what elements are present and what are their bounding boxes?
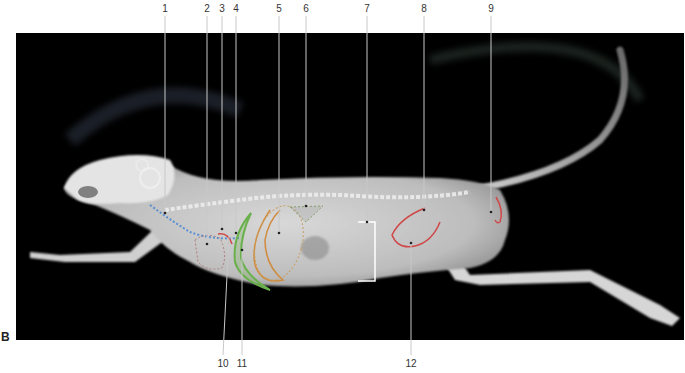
panel-letter: B xyxy=(1,330,10,344)
label-12: 12 xyxy=(405,359,416,369)
label-10: 10 xyxy=(217,359,228,369)
label-4: 4 xyxy=(233,4,239,14)
label-2: 2 xyxy=(204,4,210,14)
label-5: 5 xyxy=(276,4,282,14)
ghost-artifact xyxy=(70,47,640,140)
forelimb xyxy=(30,228,165,262)
tail xyxy=(470,50,625,190)
label-6: 6 xyxy=(303,4,309,14)
label-11: 11 xyxy=(237,359,247,369)
skull xyxy=(64,155,175,204)
label-1: 1 xyxy=(162,4,168,14)
label-8: 8 xyxy=(421,4,427,14)
label-3: 3 xyxy=(219,4,225,14)
label-9: 9 xyxy=(488,4,494,14)
radiograph-illustration xyxy=(0,0,685,373)
gas-shadow xyxy=(301,236,329,260)
label-7: 7 xyxy=(364,4,370,14)
